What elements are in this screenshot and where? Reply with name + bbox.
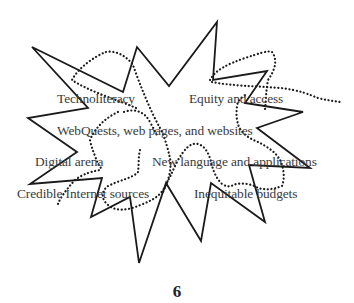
starburst-outline xyxy=(28,22,310,263)
label-technoliteracy: Technoliteracy xyxy=(57,92,135,105)
page-number: 6 xyxy=(0,283,354,300)
label-inequitable-budgets: Inequitable budgets xyxy=(194,187,297,200)
dotted-path-top-left-loop xyxy=(72,52,171,192)
label-webquests: WebQuests, web pages, and websites xyxy=(57,124,253,137)
label-credible-sources: Credible Internet sources xyxy=(17,187,149,200)
label-digital-arena: Digital arena xyxy=(35,155,103,168)
starburst-diagram xyxy=(0,0,354,303)
label-new-language: New language and applications xyxy=(152,155,317,168)
label-equity-and-access: Equity and access xyxy=(189,92,283,105)
